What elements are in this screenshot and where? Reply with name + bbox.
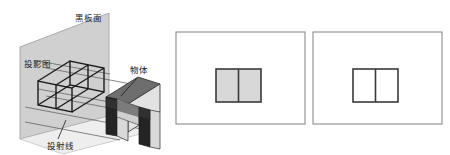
- object-leg-right-inner: [150, 110, 160, 149]
- figure-root: 黑板面 投影图 物体 投射线: [0, 0, 450, 155]
- label-projection-drawing: 投影图: [24, 59, 51, 69]
- panel-projection-view-shaded: [176, 32, 305, 124]
- panel-projection-view-outline: [313, 32, 442, 124]
- figure-canvas: 黑板面 投影图 物体 投射线: [0, 0, 450, 155]
- label-projection-rays: 投射线: [47, 141, 74, 151]
- label-object: 物体: [130, 65, 148, 75]
- label-blackboard-surface: 黑板面: [75, 13, 102, 23]
- diagram-3d: 黑板面 投影图 物体 投射线: [20, 13, 160, 154]
